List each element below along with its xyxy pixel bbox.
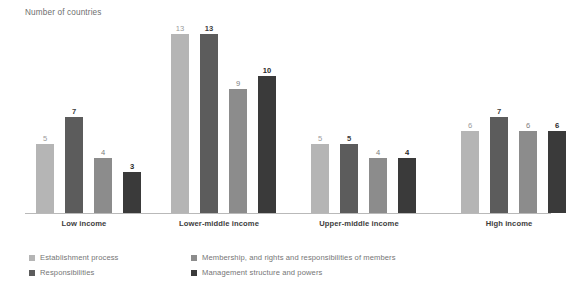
bar-value-label: 5	[36, 134, 54, 143]
bar-value-label: 4	[94, 148, 112, 157]
bar	[311, 144, 329, 213]
x-axis-baseline	[25, 213, 551, 214]
bar-rect	[340, 144, 358, 213]
bar-rect	[461, 131, 479, 214]
bar	[171, 34, 189, 213]
bar-rect	[94, 158, 112, 213]
group-label-4: High income	[429, 219, 571, 228]
bar-chart: Number of countries 5743Low income131391…	[0, 0, 571, 298]
group-label-3: Upper-middle income	[279, 219, 439, 228]
bar-value-label: 5	[311, 134, 329, 143]
legend-column-1: Establishment processResponsibilities	[29, 250, 119, 280]
bar	[65, 117, 83, 213]
bar-value-label: 6	[519, 121, 537, 130]
bar-value-label: 4	[369, 148, 387, 157]
bar-value-label: 6	[461, 121, 479, 130]
legend-label: Establishment process	[40, 253, 119, 262]
legend-item[interactable]: Membership, and rights and responsibilit…	[191, 250, 396, 265]
bar-value-label: 3	[123, 162, 141, 171]
bar	[258, 76, 276, 214]
bar	[519, 131, 537, 214]
bar	[36, 144, 54, 213]
legend-item[interactable]: Management structure and powers	[191, 265, 396, 280]
bar	[369, 158, 387, 213]
legend-item[interactable]: Responsibilities	[29, 265, 119, 280]
bar	[461, 131, 479, 214]
bar-rect	[519, 131, 537, 214]
legend-label: Management structure and powers	[202, 268, 322, 277]
bar-value-label: 5	[340, 134, 358, 143]
bar-value-label: 10	[258, 66, 276, 75]
bar-value-label: 9	[229, 79, 247, 88]
chart-axis-title: Number of countries	[25, 8, 102, 17]
bar	[200, 34, 218, 213]
bar-rect	[258, 76, 276, 214]
bar-value-label: 13	[171, 24, 189, 33]
bar-rect	[36, 144, 54, 213]
bar-rect	[123, 172, 141, 213]
legend-column-2: Membership, and rights and responsibilit…	[191, 250, 396, 280]
bar	[123, 172, 141, 213]
bar-rect	[65, 117, 83, 213]
legend-swatch-icon	[29, 255, 35, 261]
bar	[340, 144, 358, 213]
bar-value-label: 7	[65, 107, 83, 116]
bar-value-label: 6	[548, 121, 566, 130]
bar	[398, 158, 416, 213]
bar-rect	[200, 34, 218, 213]
bar-rect	[171, 34, 189, 213]
bar-value-label: 4	[398, 148, 416, 157]
group-label-2: Lower-middle income	[139, 219, 299, 228]
bar	[490, 117, 508, 213]
bar	[229, 89, 247, 213]
bar-rect	[229, 89, 247, 213]
legend-label: Responsibilities	[40, 268, 94, 277]
bar-value-label: 13	[200, 24, 218, 33]
bar-rect	[398, 158, 416, 213]
legend-swatch-icon	[191, 270, 197, 276]
bar	[94, 158, 112, 213]
legend-item[interactable]: Establishment process	[29, 250, 119, 265]
bar	[548, 131, 566, 214]
legend-label: Membership, and rights and responsibilit…	[202, 253, 396, 262]
bar-rect	[369, 158, 387, 213]
bar-value-label: 7	[490, 107, 508, 116]
bar-rect	[548, 131, 566, 214]
legend-swatch-icon	[191, 255, 197, 261]
legend-swatch-icon	[29, 270, 35, 276]
bar-rect	[311, 144, 329, 213]
bar-rect	[490, 117, 508, 213]
